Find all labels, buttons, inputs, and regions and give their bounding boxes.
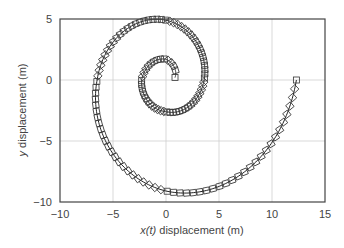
x-tick-label: −10 <box>51 208 70 220</box>
y-tick-label: −5 <box>39 135 52 147</box>
x-tick-label: 10 <box>266 208 278 220</box>
x-axis-label-text: displacement (m) <box>156 224 243 236</box>
x-tick-label: 15 <box>319 208 331 220</box>
y-axis-label-text: displacement (m) <box>16 64 28 151</box>
x-tick-label: 0 <box>163 208 169 220</box>
y-axis-label: y displacement (m) <box>16 64 28 158</box>
y-tick-labels: −10−505 <box>33 13 52 208</box>
x-tick-label: −5 <box>107 208 120 220</box>
x-axis-label: x(t) displacement (m) <box>139 224 243 236</box>
spiral-trajectory-chart: −10−5051015 −10−505 x(t) displacement (m… <box>0 0 344 248</box>
y-tick-label: 5 <box>46 13 52 25</box>
x-tick-label: 5 <box>216 208 222 220</box>
y-tick-label: 0 <box>46 74 52 86</box>
x-axis-label-italic: x(t) <box>139 224 156 236</box>
trajectory-markers <box>92 16 299 196</box>
x-tick-labels: −10−5051015 <box>51 208 331 220</box>
y-tick-label: −10 <box>33 196 52 208</box>
